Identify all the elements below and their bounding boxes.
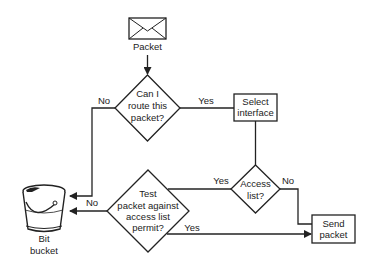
no-label: No [98,95,110,106]
envelope-icon [129,18,166,39]
process-send-packet: Send packet [312,215,355,243]
svg-text:Select: Select [242,96,269,107]
svg-text:Access: Access [240,178,271,189]
decision-access-list: Access list? [231,165,280,213]
svg-text:list?: list? [247,190,264,201]
no-label: No [282,175,294,186]
yes-label: Yes [198,95,214,106]
decision-test-packet: Test packet against access list permit? [107,170,189,252]
process-select-interface: Select interface [234,94,277,121]
svg-text:Send: Send [322,218,344,229]
bucket-icon [23,185,65,232]
bit-bucket-label: bucket [30,245,58,256]
svg-text:packet: packet [320,229,348,240]
bit-bucket-label: Bit [38,233,49,244]
svg-text:Can I: Can I [136,88,159,99]
svg-text:access list: access list [126,211,170,222]
svg-text:permit?: permit? [132,222,164,233]
decision-can-route: Can I route this packet? [115,75,180,141]
svg-text:route this: route this [128,100,167,111]
svg-text:interface: interface [237,107,273,118]
svg-text:Test: Test [139,188,157,199]
flowchart: Packet Can I route this packet? Yes Sele… [0,0,380,267]
yes-label: Yes [184,222,200,233]
no-label: No [86,197,98,208]
svg-text:packet?: packet? [131,112,164,123]
edge-can-route-no [70,108,115,196]
packet-label: Packet [133,41,162,52]
edge-access-no [280,189,312,224]
yes-label: Yes [213,175,229,186]
svg-text:packet against: packet against [117,200,179,211]
